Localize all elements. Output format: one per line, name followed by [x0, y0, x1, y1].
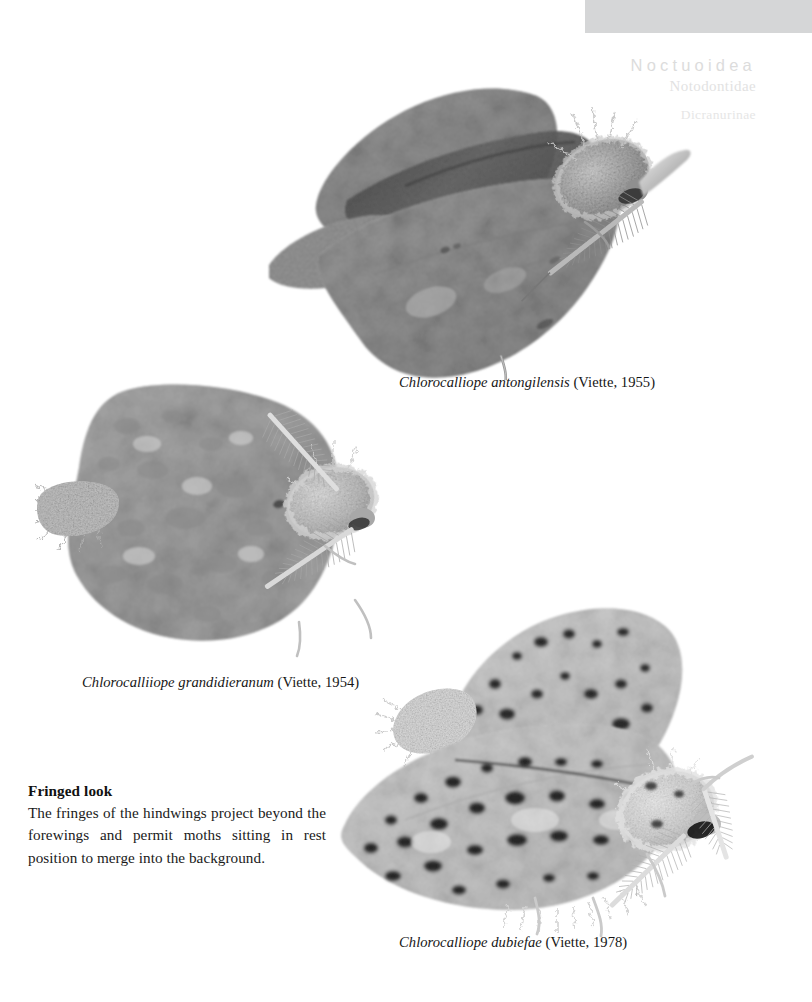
- authority-year: (Viette, 1978): [542, 934, 627, 950]
- species-name: Chlorocalliope antongilensis: [399, 374, 570, 390]
- header-color-band: [585, 0, 812, 33]
- species-name: Chlorocalliope dubiefae: [399, 934, 542, 950]
- authority-year: (Viette, 1955): [570, 374, 655, 390]
- fringed-look-note: Fringed look The fringes of the hindwing…: [28, 782, 326, 869]
- note-title: Fringed look: [28, 782, 326, 800]
- figure-caption-grandidieranum: Chlorocalliiope grandidieranum (Viette, …: [82, 674, 359, 691]
- moth-photo-dubiefae: [335, 598, 785, 943]
- species-name: Chlorocalliiope grandidieranum: [82, 674, 274, 690]
- authority-year: (Viette, 1954): [274, 674, 359, 690]
- figure-caption-dubiefae: Chlorocalliope dubiefae (Viette, 1978): [399, 934, 627, 951]
- moth-photo-antongilensis: [255, 50, 695, 380]
- note-body: The fringes of the hindwings project bey…: [28, 802, 326, 869]
- figure-caption-antongilensis: Chlorocalliope antongilensis (Viette, 19…: [399, 374, 655, 391]
- field-guide-page: Noctuoidea Notodontidae Dicranurinae: [0, 0, 812, 1002]
